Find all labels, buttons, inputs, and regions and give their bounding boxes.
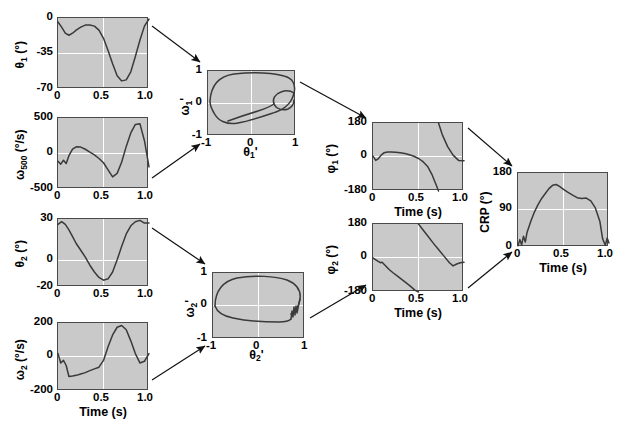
ylabel-theta2: θ2 (°) bbox=[13, 224, 28, 284]
ylabel-omega2-subscript: 2 bbox=[19, 365, 29, 370]
xtick-portrait2-min: -1 bbox=[206, 340, 216, 352]
curve-omega2 bbox=[58, 323, 149, 391]
xtick-omega2-0: 0 bbox=[54, 392, 60, 404]
ylabel-portrait1-prime: ' bbox=[178, 98, 192, 101]
ylabel-portrait2: ω2' bbox=[183, 289, 198, 329]
xtick-phi2-mid: 0.5 bbox=[408, 293, 424, 305]
arrow-theta2-to-portrait2 bbox=[152, 228, 205, 264]
xtick-crp-0: 0 bbox=[514, 248, 520, 260]
curve-crp bbox=[518, 173, 609, 247]
ylabel-theta1-unit: (°) bbox=[13, 41, 27, 54]
ylabel-phi1-symbol: φ bbox=[324, 165, 338, 174]
ytick-phi2-mid: 0 bbox=[341, 250, 367, 262]
xlabel-phi2: Time (s) bbox=[376, 306, 460, 320]
ylabel-theta1-symbol: θ bbox=[13, 62, 27, 69]
xtick-theta1-0: 0 bbox=[54, 90, 60, 102]
xtick-theta2-max: 1.0 bbox=[137, 288, 153, 300]
ylabel-phi2-unit: (°) bbox=[324, 245, 338, 258]
ylabel-crp-symbol: CRP bbox=[478, 208, 492, 233]
plot-area-theta1 bbox=[57, 17, 148, 88]
plot-area-phi2 bbox=[372, 223, 463, 291]
ytick-omega2-mid: 0 bbox=[33, 349, 53, 361]
ytick-phi1-min: -180 bbox=[328, 184, 367, 196]
xtick-theta2-mid: 0.5 bbox=[93, 288, 109, 300]
ytick-phi1-max: 180 bbox=[334, 116, 367, 128]
xtick-portrait1-max: 1 bbox=[292, 137, 298, 149]
arrow-omega1-to-portrait1 bbox=[152, 144, 200, 178]
plot-area-theta2 bbox=[57, 218, 148, 286]
xlabel-portrait2-prime: ' bbox=[261, 348, 264, 362]
xtick-crp-mid: 0.5 bbox=[553, 248, 569, 260]
ylabel-portrait1-subscript: 1 bbox=[184, 101, 194, 106]
ylabel-portrait1-symbol: ω bbox=[178, 105, 192, 115]
xtick-phi1-mid: 0.5 bbox=[408, 192, 424, 204]
ytick-portrait1-max: 1 bbox=[182, 64, 202, 76]
xtick-portrait2-max: 1 bbox=[301, 340, 307, 352]
xlabel-crp: Time (s) bbox=[521, 261, 605, 275]
xtick-omega1-mid: 0.5 bbox=[93, 190, 109, 202]
xlabel-phi1: Time (s) bbox=[376, 205, 460, 219]
ytick-phi1-mid: 0 bbox=[341, 149, 367, 161]
ylabel-theta1: θ1 (°) bbox=[13, 25, 28, 85]
ytick-phi2-min: -180 bbox=[328, 285, 367, 297]
ylabel-phi2: φ2 (°) bbox=[324, 235, 339, 285]
ytick-theta2-max: 30 bbox=[27, 212, 53, 224]
ylabel-omega2: ω2 (°/s) bbox=[13, 325, 28, 395]
ylabel-omega2-symbol: ω bbox=[13, 370, 27, 380]
ylabel-theta2-unit: (°) bbox=[13, 240, 27, 253]
xtick-phi2-max: 1.0 bbox=[452, 293, 468, 305]
ylabel-phi1: φ1 (°) bbox=[324, 134, 339, 184]
ylabel-crp-unit: (°) bbox=[478, 191, 492, 204]
xtick-phi2-0: 0 bbox=[369, 293, 375, 305]
ylabel-phi2-subscript: 2 bbox=[330, 261, 340, 266]
xtick-omega1-max: 1.0 bbox=[137, 190, 153, 202]
ytick-crp-max: 180 bbox=[479, 166, 512, 178]
plot-area-crp bbox=[517, 172, 608, 246]
ylabel-omega1-unit: (°/s) bbox=[13, 129, 27, 152]
ytick-portrait1-min: -1 bbox=[176, 129, 202, 141]
xtick-phi1-0: 0 bbox=[369, 192, 375, 204]
ytick-omega1-mid: 0 bbox=[27, 146, 53, 158]
ylabel-portrait1: ω1' bbox=[178, 87, 193, 127]
ytick-crp-min: 0 bbox=[492, 240, 512, 252]
ylabel-omega1-symbol: ω bbox=[13, 170, 27, 180]
plot-area-portrait2 bbox=[212, 272, 304, 338]
xlabel-portrait1-prime: ' bbox=[255, 145, 258, 159]
arrow-phi2-to-crp bbox=[468, 252, 512, 288]
ylabel-omega1-subscript: 500 bbox=[19, 156, 29, 170]
ytick-theta2-mid: 0 bbox=[33, 253, 53, 265]
ytick-theta1-0: 0 bbox=[27, 11, 53, 23]
xlabel-portrait2: θ2' bbox=[234, 348, 279, 363]
ylabel-theta2-subscript: 2 bbox=[19, 256, 29, 261]
plot-area-portrait1 bbox=[207, 70, 295, 135]
xtick-crp-max: 1.0 bbox=[597, 248, 613, 260]
xtick-omega2-max: 1.0 bbox=[137, 392, 153, 404]
arrow-omega2-to-portrait2 bbox=[152, 346, 205, 380]
xtick-theta1-max: 1.0 bbox=[137, 90, 153, 102]
curve-phi1 bbox=[373, 123, 464, 191]
xlabel-portrait1: θ1' bbox=[228, 145, 273, 160]
plot-area-phi1 bbox=[372, 122, 463, 190]
arrow-portrait1-to-phi1 bbox=[300, 82, 366, 118]
arrow-theta1-to-portrait1 bbox=[152, 26, 200, 62]
xtick-omega2-mid: 0.5 bbox=[93, 392, 109, 404]
ylabel-phi1-unit: (°) bbox=[324, 144, 338, 157]
curve-theta1 bbox=[58, 18, 149, 89]
ylabel-portrait2-prime: ' bbox=[183, 300, 197, 303]
ylabel-phi2-symbol: φ bbox=[324, 266, 338, 275]
curve-omega1 bbox=[58, 118, 149, 189]
ylabel-theta1-subscript: 1 bbox=[19, 57, 29, 62]
curve-theta2 bbox=[58, 219, 149, 287]
ylabel-portrait2-subscript: 2 bbox=[189, 303, 199, 308]
crp-figure: 0 -35 -70 0 0.5 1.0 θ1 (°) 500 0 -500 0 … bbox=[0, 0, 629, 429]
ylabel-omega1: ω500 (°/s) bbox=[13, 120, 28, 190]
xlabel-omega2: Time (s) bbox=[61, 405, 145, 419]
curve-phi2 bbox=[373, 224, 464, 292]
ytick-phi2-max: 180 bbox=[334, 217, 367, 229]
curve-portrait2 bbox=[213, 273, 305, 339]
ytick-portrait2-max: 1 bbox=[187, 266, 207, 278]
plot-area-omega1 bbox=[57, 117, 148, 188]
xtick-theta1-mid: 0.5 bbox=[93, 90, 109, 102]
ylabel-portrait2-symbol: ω bbox=[183, 307, 197, 317]
xtick-phi1-max: 1.0 bbox=[452, 192, 468, 204]
